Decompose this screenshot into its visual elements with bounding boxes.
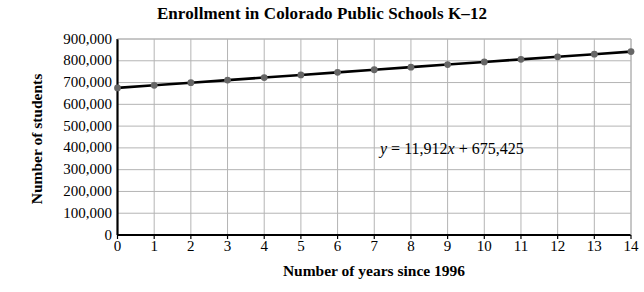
data-point-marker [224, 77, 231, 84]
data-point-marker [297, 72, 304, 79]
equation-slope-text: = 11,912 [387, 140, 447, 157]
data-point-marker [261, 74, 268, 81]
data-point-marker [334, 69, 341, 76]
x-tick-label: 2 [171, 238, 211, 254]
data-point-marker [371, 66, 378, 73]
x-tick-label: 7 [354, 238, 394, 254]
x-axis-title: Number of years since 1996 [117, 262, 631, 280]
equation-intercept-text: + 675,425 [455, 140, 524, 157]
data-point-marker [187, 79, 194, 86]
x-tick-label: 0 [98, 238, 138, 254]
data-point-marker [151, 82, 158, 89]
x-tick-label: 10 [464, 238, 504, 254]
data-point-marker [481, 59, 488, 66]
data-point-marker [114, 85, 121, 92]
x-tick-label: 8 [391, 238, 431, 254]
data-point-marker [518, 56, 525, 63]
data-point-marker [408, 64, 415, 71]
data-point-marker [444, 61, 451, 68]
x-tick-label: 11 [501, 238, 541, 254]
x-tick-label: 13 [574, 238, 614, 254]
data-point-marker [628, 48, 635, 55]
x-tick-label: 3 [208, 238, 248, 254]
equation-x-variable: x [448, 140, 455, 157]
x-tick-label: 9 [428, 238, 468, 254]
x-tick-label: 1 [134, 238, 174, 254]
x-tick-label: 6 [318, 238, 358, 254]
regression-equation-annotation: y = 11,912x + 675,425 [380, 140, 524, 158]
x-tick-label: 4 [244, 238, 284, 254]
data-point-marker [591, 51, 598, 58]
x-tick-label: 5 [281, 238, 321, 254]
x-tick-label: 12 [538, 238, 578, 254]
data-point-marker [554, 53, 561, 60]
x-tick-label: 14 [611, 238, 644, 254]
chart-container: Enrollment in Colorado Public Schools K–… [0, 0, 644, 292]
